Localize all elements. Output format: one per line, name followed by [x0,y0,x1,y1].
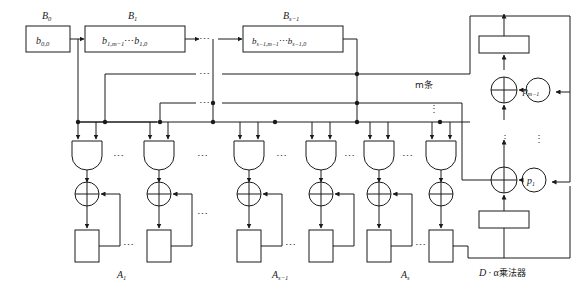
ellipsis-gates-3: ⋯ [276,150,288,162]
label-multiplier: D·α乘法器 [478,267,526,278]
label-p-1: p1 [526,175,535,187]
junction-dot [273,120,277,124]
multiplier-architecture-diagram: B0 b0,0 B1 b1,m−1⋯b1,0 Bs−1 bs−1,m−1⋯bs−… [0,0,584,286]
ellipsis-right-coeff: ⋮ [534,133,545,144]
ellipsis-right-accum: ⋮ [500,133,511,144]
label-p-m-1: pm−1 [522,85,539,97]
junction-dot [438,120,442,124]
label-B0-title: B0 [42,10,52,22]
label-B0-content: b0,0 [36,35,50,47]
label-As1: As−1 [271,269,288,281]
and-gate [306,141,336,170]
junction-dot [211,101,215,105]
lower-register-block [479,211,529,228]
coefficient-node-p-1 [522,168,546,192]
ellipsis-bus-vertical: ⋮ [429,103,440,114]
and-gate [144,141,174,170]
ellipsis-gates-4: ⋯ [344,150,356,162]
ellipsis-bus-lower: ⋯ [199,97,211,109]
register-box-B0 [26,26,70,52]
ellipsis-gates-2: ⋯ [197,150,209,162]
register-cell [429,230,453,262]
register-cell [309,230,333,262]
junction-dot [355,101,359,105]
feedback-path [391,194,412,246]
ellipsis-reg-1: ⋯ [123,239,135,251]
ellipsis-xor-row: ⋯ [197,208,209,220]
ellipsis-reg-3: ⋯ [415,239,427,251]
feedback-path [261,194,282,246]
register-box-Bs1 [243,26,343,52]
register-cell [367,230,391,262]
ellipsis-bus-upper: ⋯ [199,68,211,80]
register-cell [75,230,99,262]
junction-dot [158,120,162,124]
junction-dot [211,120,215,124]
label-A1: A1 [116,269,126,281]
ellipsis-reg-2: ⋯ [285,239,297,251]
feedback-path [171,194,192,246]
label-Bs1-content: bs−1,m−1⋯bs−1,0 [252,36,306,47]
label-bus-count: m条 [415,79,433,90]
and-gate [426,141,456,170]
label-B1-content: b1,m−1⋯b1,0 [102,35,148,47]
and-gate [234,141,264,170]
label-As: As [400,269,410,281]
feedback-path [99,194,120,246]
junction-dot [103,120,107,124]
upper-register-block [479,36,529,53]
register-cell [147,230,171,262]
label-B1-title: B1 [128,10,137,22]
and-gate [364,141,394,170]
diagram-canvas: B0 b0,0 B1 b1,m−1⋯b1,0 Bs−1 bs−1,m−1⋯bs−… [0,0,584,286]
label-Bs1-title: Bs−1 [283,10,299,22]
ellipsis-gates-5: ⋯ [402,150,414,162]
register-cell [237,230,261,262]
feedback-path [333,194,354,246]
coefficient-node-p-m-1 [526,78,550,102]
and-gate [72,141,102,170]
ellipsis-top-row: ⋯ [199,33,211,45]
ellipsis-gates-1: ⋯ [113,150,125,162]
